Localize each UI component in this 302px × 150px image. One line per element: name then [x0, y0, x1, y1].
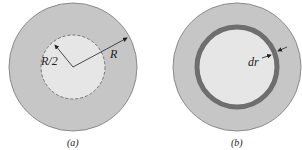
caption-a: (a) — [67, 137, 79, 149]
label-R-half: R/2 — [40, 54, 58, 68]
caption-b: (b) — [231, 137, 243, 149]
diagram-canvas: R R/2 (a) dr (b) — [0, 0, 302, 150]
thin-shell-ring — [197, 27, 277, 107]
figure-a: R R/2 (a) — [9, 3, 137, 149]
figure-b: dr (b) — [173, 3, 301, 149]
label-R: R — [109, 47, 118, 61]
label-dr: dr — [248, 55, 259, 69]
